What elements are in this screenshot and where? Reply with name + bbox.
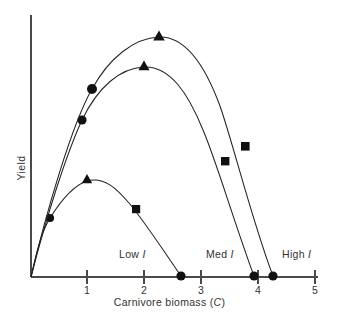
x-axis-title-prefix: Carnivore biomass ( (114, 296, 214, 308)
x-axis-title: Carnivore biomass (C) (0, 296, 339, 308)
marker-triangle-med-i-peak (138, 61, 149, 71)
annotation-high-i-prefix: High (282, 248, 308, 260)
annotation-high-i-symbol: I (308, 248, 311, 260)
marker-triangle-low-i-peak (82, 174, 92, 183)
x-tick-label-5: 5 (305, 284, 325, 296)
annotation-low-i: Low I (119, 248, 146, 260)
figure-container: 1 2 3 4 5 Low I Med I High I Yield Carni… (0, 0, 339, 322)
marker-square-low-i-decline (132, 205, 140, 213)
annotation-low-i-symbol: I (142, 248, 145, 260)
annotation-med-i: Med I (206, 248, 234, 260)
x-tick-label-1: 1 (77, 284, 97, 296)
x-tick-label-3: 3 (191, 284, 211, 296)
curve-med-i (31, 67, 254, 277)
marker-circle-low-i-end (176, 271, 185, 280)
x-axis-title-suffix: ) (221, 296, 225, 308)
marker-circle-high-i-end (268, 271, 277, 280)
marker-triangle-high-i-peak (153, 31, 165, 41)
chart-canvas (0, 0, 339, 322)
marker-square-high-i-decline (241, 142, 250, 151)
annotation-high-i: High I (282, 248, 311, 260)
y-axis-title: Yield (15, 138, 27, 198)
marker-square-med-i-decline (221, 157, 229, 165)
curve-low-i (31, 180, 181, 277)
x-tick-label-4: 4 (248, 284, 268, 296)
annotation-low-i-prefix: Low (119, 248, 142, 260)
annotation-med-i-prefix: Med (206, 248, 231, 260)
annotation-med-i-symbol: I (231, 248, 234, 260)
x-tick-label-2: 2 (134, 284, 154, 296)
marker-circle-high-i-start (87, 84, 97, 94)
marker-circle-med-i-end (249, 271, 258, 280)
